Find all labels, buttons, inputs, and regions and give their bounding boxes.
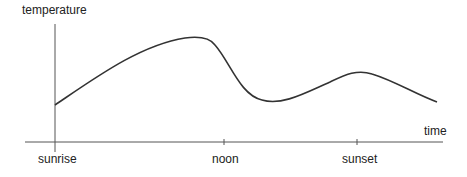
temperature-diagram	[0, 0, 467, 177]
y-axis-label: temperature	[22, 3, 87, 17]
x-axis-label: time	[424, 124, 447, 138]
tick-label-sunrise: sunrise	[38, 152, 77, 166]
tick-label-sunset: sunset	[342, 152, 377, 166]
temperature-curve	[55, 37, 437, 105]
tick-label-noon: noon	[212, 152, 239, 166]
